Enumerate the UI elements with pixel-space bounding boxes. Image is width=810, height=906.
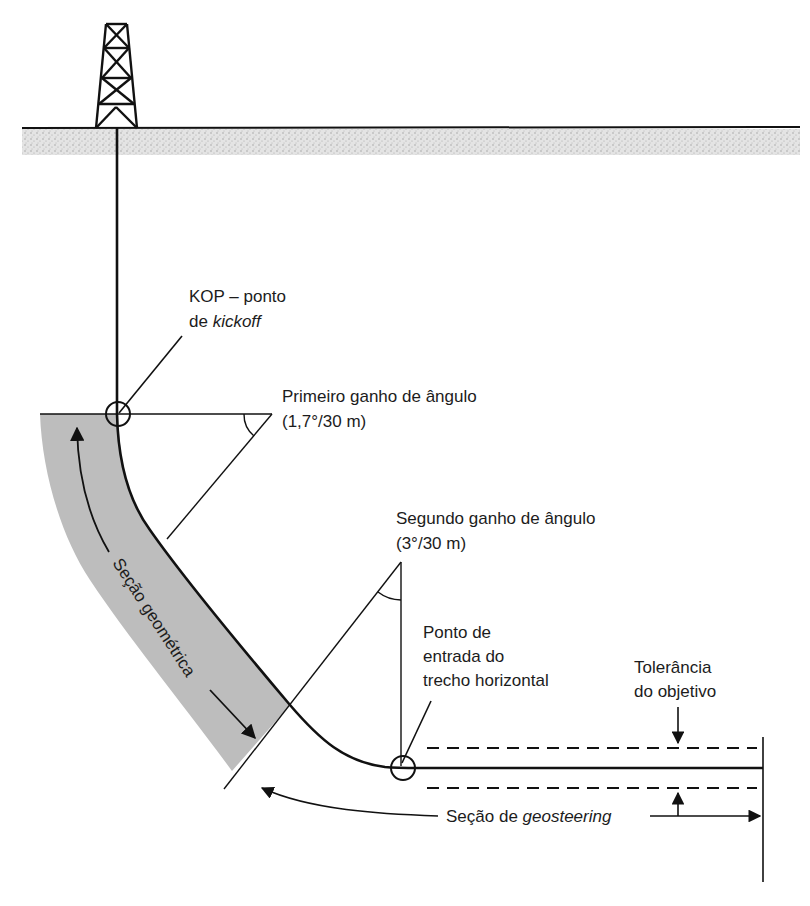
entry-label-line2: entrada do: [423, 647, 504, 666]
ground-surface: [22, 127, 800, 155]
entry-label-line1: Ponto de: [423, 623, 491, 642]
kop-label-line2: de kickoff: [189, 312, 263, 331]
geometric-section-band: [40, 414, 290, 771]
tolerance-label-line1: Tolerância: [634, 658, 712, 677]
entry-label-line3: trecho horizontal: [423, 671, 549, 690]
second-gain-label-line2: (3°/30 m): [396, 534, 466, 553]
first-gain-label-line1: Primeiro ganho de ângulo: [282, 387, 477, 406]
drilling-rig-icon: [96, 24, 137, 128]
well-diagram: KOP – ponto de kickoff Primeiro ganho de…: [0, 0, 810, 906]
geosteering-left-arrow: [262, 788, 438, 816]
geosteering-label: Seção de geosteering: [446, 807, 612, 826]
kop-label-line1: KOP – ponto: [189, 287, 286, 306]
second-gain-label-line1: Segundo ganho de ângulo: [396, 509, 595, 528]
first-gain-label-line2: (1,7°/30 m): [282, 412, 366, 431]
tolerance-label-line2: do objetivo: [634, 682, 716, 701]
